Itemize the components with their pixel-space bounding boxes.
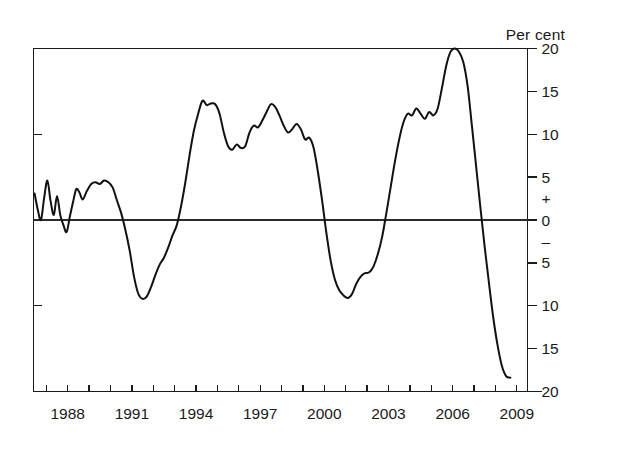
- y-tick-label: 20: [542, 40, 560, 57]
- y-tick-label: 5: [542, 254, 551, 271]
- y-tick-label: 20: [542, 383, 560, 400]
- line-chart-plot: 201510505101520+– 1988199119941997200020…: [0, 0, 622, 460]
- y-tick-label: 5: [542, 169, 551, 186]
- x-axis-ticks: [46, 385, 516, 392]
- plus-sign-marker: +: [542, 190, 551, 207]
- y-tick-label: 15: [542, 340, 559, 357]
- minus-sign-marker: –: [542, 233, 551, 250]
- x-tick-label: 2009: [500, 405, 534, 422]
- x-tick-label: 1991: [115, 405, 149, 422]
- x-axis-labels: 19881991199419972000200320062009: [50, 405, 534, 422]
- x-tick-label: 1997: [243, 405, 277, 422]
- data-series-group: [35, 49, 511, 378]
- y-tick-label: 10: [542, 126, 560, 143]
- y-tick-label: 10: [542, 297, 560, 314]
- x-tick-label: 2000: [307, 405, 342, 422]
- y-tick-label: 15: [542, 83, 559, 100]
- x-tick-label: 2006: [435, 405, 469, 422]
- x-tick-label: 2003: [371, 405, 405, 422]
- series-line-0: [35, 49, 511, 378]
- y-tick-label: 0: [542, 212, 551, 229]
- x-tick-label: 1988: [50, 405, 84, 422]
- y-axis-labels: 201510505101520+–: [542, 40, 560, 400]
- chart-container: Per cent 201510505101520+– 1988199119941…: [0, 0, 622, 460]
- x-tick-label: 1994: [179, 405, 214, 422]
